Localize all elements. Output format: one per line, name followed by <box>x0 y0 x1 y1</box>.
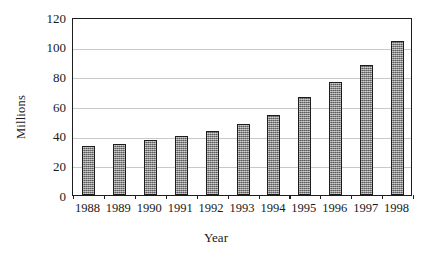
bar-chart: Millions 120100806040200 198819891990199… <box>0 0 432 261</box>
x-axis-tick-mark <box>166 195 167 199</box>
y-axis-tick-label: 100 <box>26 41 66 54</box>
bar-1989 <box>113 144 126 195</box>
x-axis-tick-mark <box>228 195 229 199</box>
bar-1993 <box>237 124 250 195</box>
y-axis-tick-label: 120 <box>26 12 66 25</box>
bar-1996 <box>329 82 342 196</box>
x-axis-tick-mark <box>73 195 74 199</box>
bar-1988 <box>82 146 95 195</box>
y-axis-tick-label: 40 <box>26 130 66 143</box>
x-axis-tick-label: 1996 <box>319 201 350 215</box>
x-axis-title: Year <box>0 230 432 246</box>
x-axis-tick-mark <box>197 195 198 199</box>
y-axis-tick-label: 0 <box>26 190 66 203</box>
x-axis-tick-mark <box>135 195 136 199</box>
x-axis-tick-label: 1989 <box>103 201 134 215</box>
x-axis-tick-mark <box>320 195 321 199</box>
x-axis-tick-label: 1997 <box>350 201 381 215</box>
x-axis-tick-label: 1993 <box>227 201 258 215</box>
y-axis-tick-label: 80 <box>26 71 66 84</box>
gridline <box>73 49 411 50</box>
y-axis-tick-label: 20 <box>26 160 66 173</box>
x-axis-tick-mark <box>104 195 105 199</box>
bar-1995 <box>298 97 311 195</box>
x-axis-tick-mark <box>289 195 290 199</box>
x-axis-tick-label: 1988 <box>72 201 103 215</box>
x-axis-tick-mark <box>382 195 383 199</box>
x-axis-tick-label: 1994 <box>258 201 289 215</box>
y-axis-tick-label: 60 <box>26 101 66 114</box>
x-axis-tick-mark <box>259 195 260 199</box>
bar-1991 <box>175 136 188 195</box>
x-axis-tick-mark <box>351 195 352 199</box>
x-axis-tick-label: 1998 <box>381 201 412 215</box>
bar-1998 <box>391 41 404 195</box>
x-axis-tick-label: 1995 <box>288 201 319 215</box>
bar-1992 <box>206 131 219 196</box>
x-axis-tick-label: 1992 <box>196 201 227 215</box>
bar-1997 <box>360 65 373 196</box>
bar-1990 <box>144 140 157 195</box>
x-axis-tick-label: 1991 <box>165 201 196 215</box>
plot-area <box>72 18 412 196</box>
x-axis-tick-mark <box>413 195 414 199</box>
x-axis-tick-label: 1990 <box>134 201 165 215</box>
bar-1994 <box>267 115 280 195</box>
